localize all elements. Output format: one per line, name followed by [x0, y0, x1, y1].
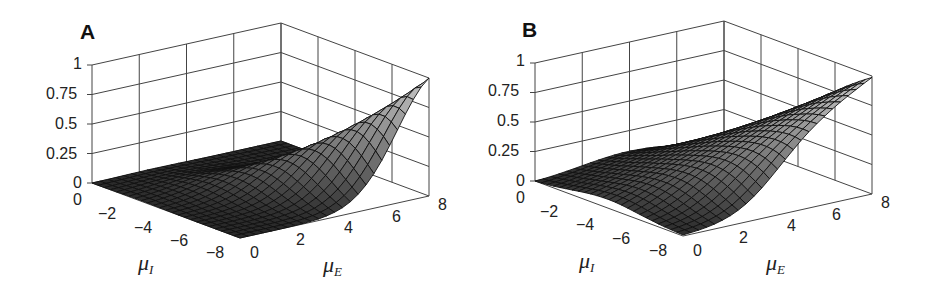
mu-e-tick-0: 0: [250, 245, 259, 261]
mu-i-tick-m2: −2: [98, 206, 116, 222]
mu-e-tick-2: 2: [739, 230, 748, 246]
z-tick-05: 0.5: [55, 116, 77, 132]
mu-e-axis-label: μE: [323, 254, 342, 283]
panel-letter-a: A: [80, 20, 95, 44]
panel-a: A 1 0.75 0.5 0.25 0 0 −2 −4 −6 −8 0 2 4 …: [0, 0, 466, 290]
mu-i-tick-m8: −8: [206, 245, 224, 261]
z-tick-1: 1: [73, 56, 82, 72]
mu-i-tick-0: 0: [73, 192, 82, 208]
z-tick-075: 0.75: [46, 86, 77, 102]
z-tick-0: 0: [73, 175, 82, 191]
mu-e-axis-label: μE: [766, 252, 785, 281]
mu-i-tick-m8: −8: [649, 243, 667, 259]
mu-e-tick-4: 4: [344, 220, 353, 236]
mu-e-tick-6: 6: [832, 207, 841, 223]
mu-i-tick-m6: −6: [612, 231, 630, 247]
z-tick-025: 0.25: [488, 143, 519, 159]
mu-i-tick-m4: −4: [134, 220, 152, 236]
surface-mesh: [92, 78, 429, 238]
surface-mesh: [535, 77, 872, 235]
z-tick-075: 0.75: [488, 83, 519, 99]
mu-e-tick-6: 6: [392, 209, 401, 225]
mu-i-tick-0: 0: [516, 190, 525, 206]
mu-i-tick-m4: −4: [576, 217, 594, 233]
mu-e-tick-2: 2: [296, 232, 305, 248]
panel-b: B 1 0.75 0.5 0.25 0 0 −2 −4 −6 −8 0 2 4 …: [466, 0, 933, 290]
mu-e-tick-8: 8: [881, 195, 890, 211]
panel-letter-b: B: [522, 18, 537, 42]
mu-i-axis-label: μI: [579, 250, 594, 279]
z-tick-1: 1: [516, 53, 525, 69]
mu-i-tick-m6: −6: [170, 233, 188, 249]
mu-e-tick-0: 0: [693, 243, 702, 259]
mu-i-axis-label: μI: [138, 252, 153, 281]
mu-i-tick-m2: −2: [540, 204, 558, 220]
mu-e-tick-4: 4: [787, 218, 796, 234]
z-tick-05: 0.5: [497, 113, 519, 129]
z-tick-025: 0.25: [46, 146, 77, 162]
mu-e-tick-8: 8: [438, 197, 447, 213]
z-tick-0: 0: [516, 173, 525, 189]
